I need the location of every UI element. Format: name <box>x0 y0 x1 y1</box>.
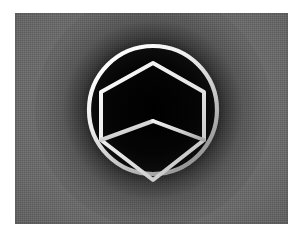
cube-in-circle-emblem <box>15 13 288 224</box>
image-description: A white line-art isometric cube enclosed… <box>0 0 1 1</box>
textured-panel <box>15 13 288 224</box>
image-canvas: A white line-art isometric cube enclosed… <box>0 0 304 238</box>
